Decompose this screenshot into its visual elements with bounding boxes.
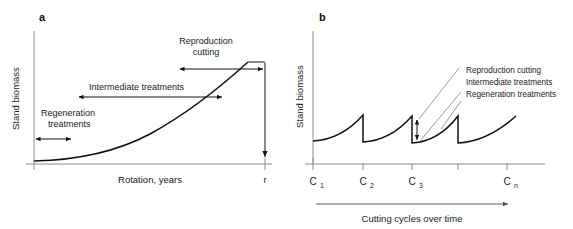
panel-b-annotation-line2: Intermediate treatments: [466, 78, 552, 87]
panel-b-tick-label-cn-sub: n: [514, 182, 518, 189]
panel-a-x-axis-label: Rotation, years: [118, 174, 182, 185]
panel-b-tick-label-c1-sub: 1: [320, 182, 324, 189]
panel-b-tick-label-c3: C 3: [408, 176, 423, 189]
panel-b-tick-label-c2: C 2: [359, 176, 374, 189]
figure-root: a Stand biomass Regeneration treatments …: [0, 0, 573, 229]
panel-b-tick-label-cn: C n: [503, 176, 518, 189]
panel-a-regeneration-label-line2: treatments: [48, 119, 91, 129]
panel-b-x-axis-label: Cutting cycles over time: [362, 213, 463, 224]
figure-canvas: a Stand biomass Regeneration treatments …: [0, 0, 573, 229]
panel-b-annotation-line3: Regeneration treatments: [466, 90, 556, 99]
panel-b-tick-label-c3-sub: 3: [419, 182, 423, 189]
panel-b-sawtooth-curve: [313, 115, 516, 143]
panel-b-tick-label-c1: C 1: [309, 176, 324, 189]
panel-a: a Stand biomass Regeneration treatments …: [10, 11, 272, 185]
panel-b-tick-label-c1-base: C: [309, 176, 316, 187]
panel-a-reproduction-label-line2: cutting: [193, 47, 220, 57]
panel-b-tick-label-cn-base: C: [503, 176, 510, 187]
panel-b-letter: b: [319, 11, 326, 23]
panel-a-letter: a: [39, 11, 46, 23]
panel-a-regeneration-label-line1: Regeneration: [41, 108, 95, 118]
panel-a-intermediate-label: Intermediate treatments: [89, 82, 185, 92]
panel-b: b Stand biomass Reproduction cutting Int…: [294, 11, 556, 224]
panel-b-annotation-line1: Reproduction cutting: [466, 66, 542, 75]
panel-b-leader-reproduction: [419, 68, 459, 119]
panel-a-reproduction-label-line1: Reproduction: [179, 36, 233, 46]
panel-a-y-axis-label: Stand biomass: [10, 67, 21, 130]
panel-a-x-end-label: r: [264, 175, 267, 185]
panel-b-y-axis-label: Stand biomass: [294, 65, 305, 128]
panel-b-tick-label-c2-sub: 2: [370, 182, 374, 189]
panel-b-tick-label-c2-base: C: [359, 176, 366, 187]
panel-b-tick-label-c3-base: C: [408, 176, 415, 187]
